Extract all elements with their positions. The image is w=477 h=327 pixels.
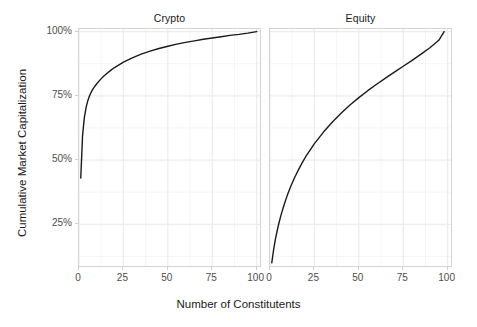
x-tick-label: 100 [432,272,462,284]
x-tick-mark [402,267,403,270]
data-line-crypto [81,32,257,178]
x-tick-label: 0 [63,272,93,284]
x-tick-label: 75 [387,272,417,284]
y-tick-label: 50% [36,153,72,165]
x-tick-mark [122,267,123,270]
data-line-equity [272,32,444,263]
x-tick-label: 50 [343,272,373,284]
y-tick-label: 75% [36,89,72,101]
panel-title-crypto: Crypto [78,11,261,25]
y-axis-title: Cumulative Market Capitalization [16,3,28,303]
x-tick-mark [78,267,79,270]
y-tick-label: 25% [36,217,72,229]
x-tick-mark [256,267,257,270]
x-tick-mark [211,267,212,270]
x-tick-label: 25 [298,272,328,284]
chart-figure: Crypto Equity 25%50%75%100% 025507510002… [0,0,477,327]
x-tick-label: 0 [254,272,284,284]
panel-title-equity: Equity [269,11,452,25]
x-tick-label: 75 [196,272,226,284]
x-tick-mark [269,267,270,270]
x-tick-mark [167,267,168,270]
x-tick-mark [358,267,359,270]
plot-canvas-equity [270,29,452,267]
plot-canvas-crypto [79,29,261,267]
x-axis-title: Number of Constitutents [0,298,477,310]
x-tick-label: 25 [107,272,137,284]
plot-panel-crypto [78,28,261,267]
x-tick-mark [313,267,314,270]
y-tick-label: 100% [36,25,72,37]
plot-panel-equity [269,28,452,267]
x-tick-mark [447,267,448,270]
x-tick-label: 50 [152,272,182,284]
